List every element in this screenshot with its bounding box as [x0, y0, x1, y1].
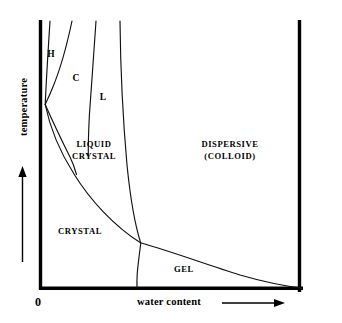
region-label-dispersive-line1: DISPERSIVE	[201, 139, 258, 149]
region-label-crystal: CRYSTAL	[58, 226, 102, 236]
h-region-lower-tail-curve	[45, 105, 76, 175]
gel-dispersive-boundary-curve	[141, 243, 302, 288]
origin-label: 0	[35, 295, 41, 309]
x-axis-title: water content	[137, 296, 201, 307]
crystal-liquidcrystal-boundary-curve	[45, 21, 140, 243]
y-axis-title: temperature	[18, 78, 29, 136]
c-l-boundary-curve	[88, 21, 96, 156]
liquidcrystal-dispersive-boundary-curve	[120, 21, 141, 243]
gel-crystal-boundary-curve	[137, 243, 141, 288]
y-axis-annotation: temperature	[18, 78, 29, 262]
region-label-c: C	[72, 73, 79, 83]
region-labels: H C L LIQUID CRYSTAL DISPERSIVE (COLLOID…	[47, 49, 258, 274]
phase-diagram-canvas: H C L LIQUID CRYSTAL DISPERSIVE (COLLOID…	[0, 0, 342, 323]
region-label-liquid-crystal-line2: CRYSTAL	[72, 151, 116, 161]
region-label-h: H	[47, 49, 55, 59]
region-label-gel: GEL	[174, 264, 194, 274]
y-axis-arrow-head-icon	[18, 166, 26, 177]
phase-diagram-figure: H C L LIQUID CRYSTAL DISPERSIVE (COLLOID…	[0, 0, 342, 323]
x-axis-annotation: water content	[137, 296, 285, 307]
x-axis-arrow-head-icon	[274, 299, 285, 307]
region-label-dispersive-line2: (COLLOID)	[204, 151, 255, 161]
region-label-l: L	[100, 92, 107, 102]
region-label-liquid-crystal-line1: LIQUID	[77, 139, 112, 149]
